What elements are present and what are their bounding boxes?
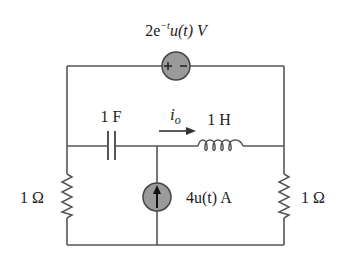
wires <box>67 66 284 245</box>
current-io-label: io <box>170 105 181 127</box>
resistor-right-label: 1 Ω <box>301 189 325 206</box>
circuit-diagram: 2e−tu(t) V 1 F 1 H io 4u(t) A 1 Ω 1 Ω <box>0 0 355 258</box>
capacitor <box>108 131 115 160</box>
voltage-source-label: 2e−tu(t) V <box>145 20 209 40</box>
resistor-right <box>279 174 289 218</box>
inductor <box>198 140 243 151</box>
current-source <box>143 183 171 211</box>
resistor-left <box>62 174 72 218</box>
capacitor-label: 1 F <box>101 108 122 125</box>
voltage-source <box>162 52 190 80</box>
resistor-left-label: 1 Ω <box>20 189 44 206</box>
arrow-right-icon <box>186 127 196 135</box>
current-source-label: 4u(t) A <box>186 189 232 207</box>
inductor-label: 1 H <box>207 111 231 128</box>
current-arrow <box>159 127 196 135</box>
